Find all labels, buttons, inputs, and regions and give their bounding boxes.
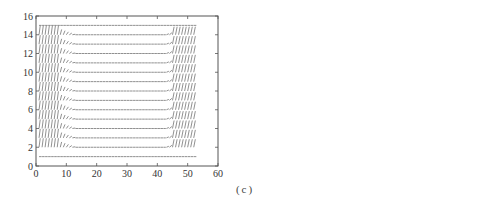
right-plot-svg: 01020304050600102030405060 [245, 0, 490, 180]
y-tick-label: 0 [28, 161, 33, 172]
x-tick-label: 10 [61, 168, 71, 179]
x-tick-label: 50 [183, 168, 193, 179]
x-tick-label: 40 [152, 168, 162, 179]
y-tick-label: 12 [23, 48, 33, 59]
left-quiver-plot: 01020304050600246810121416 [0, 0, 245, 180]
left-plot-svg: 01020304050600246810121416 [0, 0, 245, 180]
vector-field [39, 25, 196, 156]
y-tick-label: 14 [23, 29, 33, 40]
y-tick-label: 10 [23, 67, 33, 78]
y-tick-label: 4 [28, 123, 33, 134]
y-tick-label: 2 [28, 142, 33, 153]
x-tick-label: 60 [213, 168, 223, 179]
figure-caption: (c) [0, 183, 490, 195]
x-tick-label: 20 [92, 168, 102, 179]
y-tick-label: 16 [23, 11, 33, 22]
x-tick-label: 0 [34, 168, 39, 179]
x-tick-label: 30 [122, 168, 132, 179]
y-tick-label: 8 [28, 86, 33, 97]
y-tick-label: 6 [28, 104, 33, 115]
right-quiver-plot: 01020304050600102030405060 [245, 0, 490, 180]
